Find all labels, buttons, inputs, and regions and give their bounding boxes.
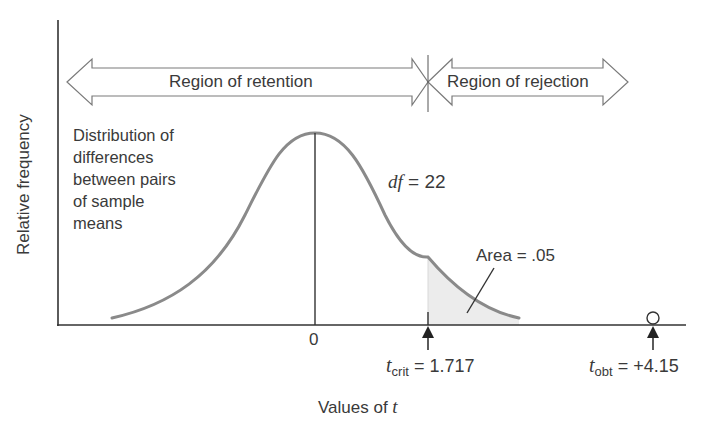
t-obt-point: [647, 312, 659, 324]
df-var: df: [388, 171, 403, 192]
annotation-line: differences: [73, 146, 243, 168]
annotation-line: between pairs: [73, 168, 243, 190]
t-obt-sub: obt: [595, 364, 613, 379]
annotation-line: Distribution of: [73, 124, 243, 146]
df-value: = 22: [403, 171, 446, 192]
x-axis-label-var: t: [392, 396, 397, 417]
annotation-line: of sample: [73, 190, 243, 212]
t-obt-arrow-icon: [647, 326, 659, 338]
rejection-region-label: Region of rejection: [447, 73, 589, 90]
t-crit-label: tcrit = 1.717: [386, 355, 474, 378]
x-axis-label-text: Values of: [318, 398, 392, 417]
t-crit-value: = 1.717: [409, 356, 475, 376]
retention-region-label: Region of retention: [169, 73, 313, 90]
df-label: df = 22: [388, 172, 446, 191]
t-crit-arrow-icon: [422, 326, 434, 338]
y-axis-label: Relative frequency: [14, 114, 34, 255]
area-label: Area = .05: [476, 247, 555, 264]
distribution-annotation: Distribution of differences between pair…: [73, 124, 243, 234]
annotation-line: means: [73, 212, 243, 234]
t-obt-value: = +4.15: [613, 356, 679, 376]
t-obt-label: tobt = +4.15: [589, 355, 679, 378]
x-tick-label: 0: [309, 331, 318, 348]
t-crit-sub: crit: [392, 364, 409, 379]
x-axis-label: Values of t: [318, 397, 398, 416]
